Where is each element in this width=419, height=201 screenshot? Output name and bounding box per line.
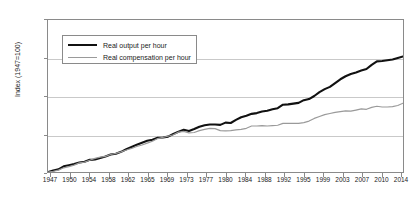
x-tick-1984: [245, 173, 246, 177]
chart-container: Index (1947=100) 100200300400500 1947195…: [0, 0, 419, 201]
x-tick-1962: [128, 173, 129, 177]
x-tick-label-2014: 2014: [388, 177, 414, 184]
legend-item-output: Real output per hour: [68, 39, 191, 51]
y-axis-title: Index (1947=100): [14, 15, 21, 125]
series-line-output: [48, 56, 403, 172]
legend-label-compensation: Real compensation per hour: [103, 54, 191, 61]
legend-swatch-compensation: [68, 57, 97, 58]
legend-item-compensation: Real compensation per hour: [68, 51, 191, 63]
x-tick-1992: [284, 173, 285, 177]
series-line-compensation: [48, 103, 403, 172]
x-tick-1950: [70, 173, 71, 177]
x-tick-1973: [187, 173, 188, 177]
x-tick-1958: [109, 173, 110, 177]
x-tick-1995: [304, 173, 305, 177]
x-tick-1965: [148, 173, 149, 177]
x-tick-1969: [167, 173, 168, 177]
x-tick-2007: [362, 173, 363, 177]
x-tick-1947: [50, 173, 51, 177]
x-tick-2003: [343, 173, 344, 177]
y-tick-100: [44, 173, 47, 174]
x-tick-1977: [206, 173, 207, 177]
x-tick-2014: [401, 173, 402, 177]
x-tick-1999: [323, 173, 324, 177]
x-tick-1980: [226, 173, 227, 177]
legend-label-output: Real output per hour: [103, 42, 167, 49]
x-tick-2010: [382, 173, 383, 177]
legend-swatch-output: [68, 44, 97, 46]
chart-legend: Real output per hour Real compensation p…: [62, 35, 197, 64]
x-tick-1988: [265, 173, 266, 177]
x-tick-1954: [89, 173, 90, 177]
